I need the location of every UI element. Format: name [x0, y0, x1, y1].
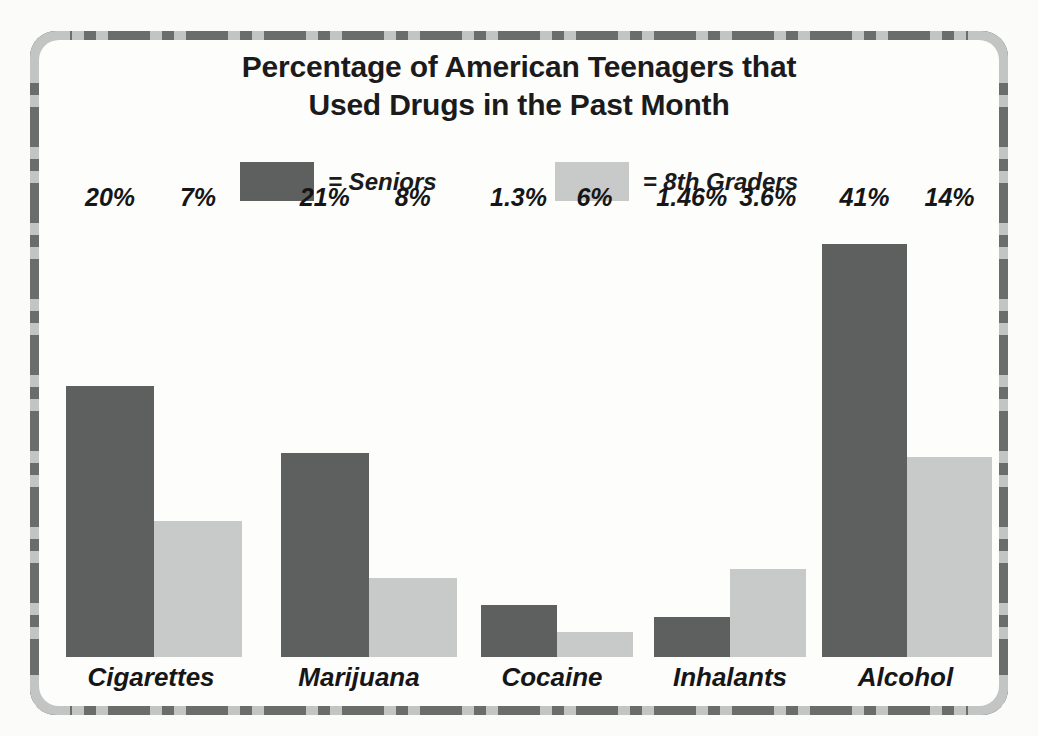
bar-rect	[730, 569, 806, 657]
bar-value-label: 3.6%	[739, 185, 796, 210]
bar-cocaine-8th-graders: 6%	[557, 215, 633, 657]
category-label-cocaine: Cocaine	[463, 662, 641, 693]
bar-alcohol-8th-graders: 14%	[907, 215, 992, 657]
bar-value-label: 7%	[180, 185, 216, 210]
category-label-cigarettes: Cigarettes	[47, 662, 255, 693]
bar-value-label: 14%	[924, 185, 974, 210]
category-label-alcohol: Alcohol	[819, 662, 992, 693]
bar-rect	[907, 457, 992, 657]
bar-inhalants-8th-graders: 3.6%	[730, 215, 806, 657]
bar-marijuana-8th-graders: 8%	[369, 215, 457, 657]
bar-rect	[66, 386, 154, 657]
bar-value-label: 1.46%	[656, 185, 727, 210]
bar-value-label: 1.3%	[490, 185, 547, 210]
chart-title-line-1: Percentage of American Teenagers that	[60, 48, 978, 86]
bar-group-marijuana: 21%8%	[250, 215, 465, 657]
bar-value-label: 41%	[839, 185, 889, 210]
bar-group-inhalants: 1.46%3.6%	[638, 215, 811, 657]
bar-group-cigarettes: 20%7%	[47, 215, 250, 657]
bar-group-cocaine: 1.3%6%	[465, 215, 638, 657]
category-label-inhalants: Inhalants	[641, 662, 819, 693]
chart-title-line-2: Used Drugs in the Past Month	[60, 86, 978, 124]
plot-area: 20%7%21%8%1.3%6%1.46%3.6%41%14%	[47, 215, 992, 657]
bar-rect	[822, 244, 907, 657]
bar-rect	[369, 578, 457, 657]
bar-value-label: 6%	[576, 185, 612, 210]
bar-rect	[281, 453, 369, 657]
chart-title: Percentage of American Teenagers that Us…	[60, 48, 978, 124]
bar-inhalants-seniors: 1.46%	[654, 215, 730, 657]
bar-marijuana-seniors: 21%	[281, 215, 369, 657]
bar-value-label: 8%	[395, 185, 431, 210]
bar-group-alcohol: 41%14%	[811, 215, 992, 657]
bar-rect	[557, 632, 633, 657]
bar-value-label: 20%	[85, 185, 135, 210]
bar-rect	[654, 617, 730, 657]
category-axis-labels: CigarettesMarijuanaCocaineInhalantsAlcoh…	[47, 662, 992, 693]
bar-rect	[154, 521, 242, 657]
bar-groups: 20%7%21%8%1.3%6%1.46%3.6%41%14%	[47, 215, 992, 657]
bar-value-label: 21%	[300, 185, 350, 210]
category-label-marijuana: Marijuana	[255, 662, 463, 693]
bar-rect	[481, 605, 557, 657]
bar-alcohol-seniors: 41%	[822, 215, 907, 657]
bar-cigarettes-8th-graders: 7%	[154, 215, 242, 657]
bar-cigarettes-seniors: 20%	[66, 215, 154, 657]
bar-cocaine-seniors: 1.3%	[481, 215, 557, 657]
